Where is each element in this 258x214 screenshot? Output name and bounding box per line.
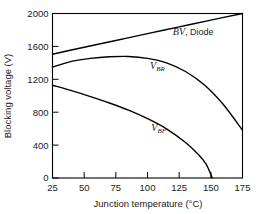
y-tick-label: 800 (33, 107, 49, 118)
x-tick-label: 175 (235, 182, 251, 193)
y-axis-title: Blocking voltage (V) (2, 54, 13, 138)
chart-figure: 0400800120016002000 255075100125150175 B… (0, 0, 258, 214)
x-tick-label: 100 (140, 182, 156, 193)
y-tick-label: 1200 (27, 74, 48, 85)
x-tick-label: 125 (171, 182, 187, 193)
x-tick-label: 50 (79, 182, 90, 193)
series-label-0: BV, Diode (173, 26, 214, 37)
y-tick-label: 1600 (27, 41, 48, 52)
y-tick-label: 400 (33, 140, 49, 151)
y-tick-label: 2000 (27, 8, 48, 19)
x-tick-label: 25 (47, 182, 58, 193)
blocking-voltage-line-chart: 0400800120016002000 255075100125150175 B… (0, 0, 258, 214)
x-axis-title: Junction temperature (°C) (94, 198, 203, 209)
x-tick-label: 75 (111, 182, 122, 193)
x-tick-label: 150 (203, 182, 219, 193)
